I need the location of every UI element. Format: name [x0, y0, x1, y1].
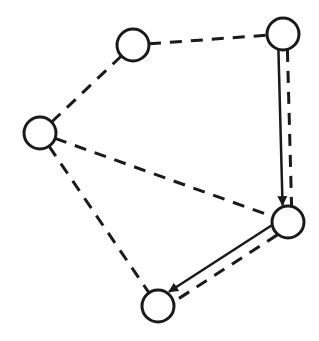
graph-node-D — [272, 206, 304, 238]
graph-node-E — [142, 290, 174, 322]
graph-node-C — [24, 117, 56, 149]
dashed-edge-A-C — [52, 56, 122, 122]
graph-node-A — [117, 29, 149, 61]
dashed-edge-B-D — [287, 50, 291, 206]
dashed-edge-D-E — [174, 235, 277, 302]
arrow-edge-B-D — [278, 48, 282, 205]
directed-edges — [169, 48, 283, 292]
graph-diagram — [0, 0, 319, 341]
graph-node-B — [267, 18, 299, 50]
dashed-edges — [49, 35, 292, 301]
arrow-edge-D-E — [169, 225, 273, 292]
dashed-edge-A-B — [149, 35, 267, 44]
